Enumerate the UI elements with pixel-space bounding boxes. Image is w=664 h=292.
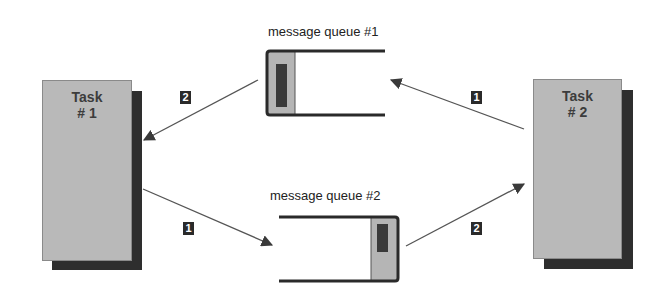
arrow-queue2-to-task2	[406, 184, 524, 246]
step-badge-queue2-to-task2: 2	[471, 222, 482, 235]
diagram-canvas	[0, 0, 664, 292]
queue-1-item	[276, 64, 287, 107]
arrow-queue1-to-task1	[144, 80, 258, 140]
step-badge-queue1-to-task1: 2	[180, 91, 191, 104]
queue-2-item	[377, 224, 388, 252]
arrow-task2-to-queue1	[391, 80, 524, 129]
queue-1	[267, 51, 385, 115]
queue-2	[279, 217, 398, 281]
step-badge-task2-to-queue1: 1	[471, 91, 482, 104]
arrow-task1-to-queue2	[143, 189, 272, 245]
step-badge-task1-to-queue2: 1	[183, 222, 194, 235]
